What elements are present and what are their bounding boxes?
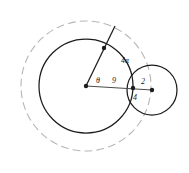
large-circle-center-point — [84, 84, 88, 88]
arc-length-label: 4π — [121, 56, 130, 65]
angled-radius-line — [86, 26, 115, 86]
geometry-figure-svg: θ 4π 9 2 4 — [0, 0, 189, 173]
small-radius-label: 2 — [141, 77, 145, 86]
arc-intersection-point — [102, 46, 106, 50]
tangency-point — [131, 86, 135, 90]
geometry-figure-container: θ 4π 9 2 4 — [0, 0, 189, 173]
small-circle-center-point — [150, 88, 154, 92]
horizontal-radius-line — [86, 86, 152, 90]
large-radius-label: 9 — [112, 76, 116, 85]
angle-theta-label: θ — [96, 76, 100, 85]
segment-four-label: 4 — [133, 93, 137, 102]
